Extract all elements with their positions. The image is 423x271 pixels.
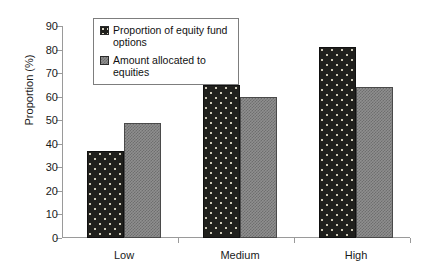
x-tick-label-low: Low [87,249,161,261]
y-tick-label: 40 [46,138,58,150]
x-tick [294,238,295,243]
legend-label-amount: Amount allocated to equities [113,54,231,78]
y-tick-label: 50 [46,114,58,126]
x-tick-label-high: High [319,249,393,261]
y-tick-label: 30 [46,161,58,173]
x-tick [410,238,411,243]
bar-medium-series1 [240,97,277,238]
legend-swatch-gray-icon [100,56,109,65]
bar-chart: Proportion (%) 0102030405060708090 LowMe… [0,0,423,271]
bar-low-series1 [124,123,161,238]
y-tick-label: 80 [46,44,58,56]
y-tick-label: 20 [46,185,58,197]
bar-medium-series0 [203,85,240,238]
legend-item-proportion: Proportion of equity fund options [100,24,231,48]
legend-label-proportion: Proportion of equity fund options [113,24,231,48]
bar-high-series1 [356,87,393,238]
bar-high-series0 [319,47,356,238]
legend-item-amount: Amount allocated to equities [100,54,231,78]
y-tick-label: 90 [46,20,58,32]
y-tick-label: 10 [46,208,58,220]
legend-swatch-dark-icon [100,26,109,35]
y-tick-label: 0 [52,232,58,244]
y-axis-line [62,26,63,238]
y-axis-label: Proportion (%) [23,15,35,165]
x-tick [178,238,179,243]
y-tick-label: 70 [46,67,58,79]
chart-legend: Proportion of equity fund options Amount… [93,18,239,85]
y-tick-label: 60 [46,91,58,103]
bar-group: High [319,26,393,238]
x-tick-label-medium: Medium [203,249,277,261]
bar-low-series0 [87,151,124,238]
